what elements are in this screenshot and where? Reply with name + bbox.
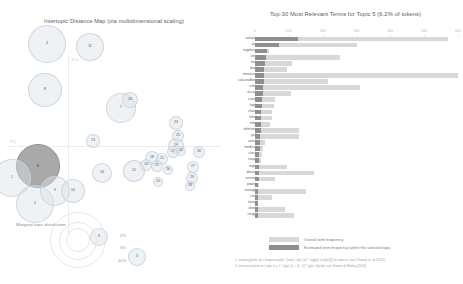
bar-topic-frequency <box>255 152 259 157</box>
bar-topic-frequency <box>255 73 264 78</box>
topic-bubble-label: 17 <box>171 150 175 154</box>
topic-bubble-label: 4 <box>46 42 48 46</box>
bar-topic-frequency <box>255 97 262 102</box>
topic-bubble-label: 5 <box>37 164 39 168</box>
topic-bubble-15[interactable]: 15 <box>156 153 168 165</box>
bar-topic-frequency <box>255 49 267 54</box>
legend-swatch-overall <box>269 237 299 242</box>
topic-bubble-13[interactable]: 13 <box>86 134 100 148</box>
topic-bubble-30[interactable]: 30 <box>193 146 205 158</box>
topic-bubble-label: 30 <box>197 150 201 154</box>
topic-bubble-label: 20 <box>156 180 160 184</box>
bar-topic-frequency <box>255 134 260 139</box>
bar-overall-frequency <box>255 207 285 212</box>
bar-topic-frequency <box>255 177 259 182</box>
topic-bubble-label: 26 <box>166 168 170 172</box>
bar-overall-frequency <box>255 189 306 194</box>
bar-chart-x-axis: 0100200300400500600 <box>255 29 458 35</box>
topic-bubble-26[interactable]: 26 <box>163 165 173 175</box>
size-legend-label-2pct: 2% <box>120 233 126 238</box>
footnote-relevance: 2. relevance(term w | topic t) = λ * p(w… <box>235 264 460 268</box>
term-bar-row[interactable]: rough <box>228 213 463 219</box>
intertopic-map-canvas[interactable]: PC2 PC1 41187242313512910161263181421151… <box>0 28 228 228</box>
topic-bubble-label: 22 <box>179 149 183 153</box>
legend-row-overall: Overall term frequency <box>269 236 459 244</box>
bar-topic-frequency <box>255 67 264 72</box>
bar-overall-frequency <box>255 79 328 84</box>
topic-bubble-23[interactable]: 23 <box>169 116 183 130</box>
topic-bubble-11[interactable]: 11 <box>76 33 104 61</box>
bar-topic-frequency <box>255 195 258 200</box>
pyldavis-app: Intertopic Distance Map (via multidimens… <box>0 0 463 284</box>
topic-bubble-label: 28 <box>188 184 192 188</box>
topic-bubble-22[interactable]: 22 <box>176 146 186 156</box>
bar-topic-frequency <box>255 55 266 60</box>
topic-bubble-label: 11 <box>88 45 92 49</box>
topic-bubble-label: 8 <box>44 88 46 92</box>
top-terms-panel: Top-30 Most Relevant Terms for Topic 5 (… <box>228 0 463 284</box>
bar-topic-frequency <box>255 207 258 212</box>
topic-bubble-label: 1 <box>11 176 13 180</box>
topic-bubble-label: 15 <box>160 157 164 161</box>
intertopic-distance-panel: Intertopic Distance Map (via multidimens… <box>0 0 228 284</box>
x-tick-label: 400 <box>387 29 393 33</box>
bar-topic-frequency <box>255 91 263 96</box>
x-tick-label: 500 <box>421 29 427 33</box>
size-legend-label-10pct: 10% <box>118 258 126 263</box>
topic-bubble-25[interactable]: 25 <box>172 130 184 142</box>
bar-topic-frequency <box>255 37 298 42</box>
legend-label-within: Estimated term frequency within the sele… <box>304 245 391 250</box>
map-y-axis <box>68 56 69 236</box>
size-circle-10pct <box>50 212 106 268</box>
intertopic-map-title: Intertopic Distance Map (via multidimens… <box>0 18 228 24</box>
pc1-axis-label: PC1 <box>10 140 17 144</box>
topic-bubble-10[interactable]: 10 <box>61 179 85 203</box>
topic-bubble-20[interactable]: 20 <box>153 177 163 187</box>
bar-topic-frequency <box>255 171 259 176</box>
x-tick-label: 300 <box>354 29 360 33</box>
topic-bubble-label: 2 <box>34 202 36 206</box>
bar-overall-frequency <box>255 128 299 133</box>
bar-topic-frequency <box>255 158 259 163</box>
topic-bubble-16[interactable]: 16 <box>92 163 112 183</box>
topic-bubble-label: 21 <box>155 164 159 168</box>
bar-topic-frequency <box>255 79 264 84</box>
legend-swatch-within <box>269 245 299 250</box>
topic-bubble-label: 18 <box>150 156 154 160</box>
bar-overall-frequency <box>255 213 294 218</box>
bar-overall-frequency <box>255 85 360 90</box>
bar-topic-frequency <box>255 165 259 170</box>
legend-row-within: Estimated term frequency within the sele… <box>269 244 459 252</box>
topic-bubble-label: 9 <box>54 189 56 193</box>
bar-topic-frequency <box>255 61 265 66</box>
bar-topic-frequency <box>255 104 262 109</box>
topic-bubble-4[interactable]: 4 <box>28 25 66 63</box>
bar-chart-title: Top-30 Most Relevant Terms for Topic 5 (… <box>228 11 463 17</box>
bar-overall-frequency <box>255 171 314 176</box>
topic-bubble-8[interactable]: 8 <box>28 73 62 107</box>
bar-topic-frequency <box>255 85 263 90</box>
topic-bubble-label: 12 <box>132 169 136 173</box>
bar-topic-frequency <box>255 128 261 133</box>
bar-topic-frequency <box>255 146 260 151</box>
bar-topic-frequency <box>255 116 261 121</box>
bar-chart-legend: Overall term frequency Estimated term fr… <box>269 236 459 252</box>
topic-bubble-label: 25 <box>176 134 180 138</box>
bar-overall-frequency <box>255 165 287 170</box>
bar-topic-frequency <box>255 43 279 48</box>
topic-bubble-label: 16 <box>100 171 104 175</box>
topic-bubble-28[interactable]: 28 <box>185 181 195 191</box>
x-tick-label: 200 <box>320 29 326 33</box>
topic-bubble-24[interactable]: 24 <box>122 92 138 108</box>
bar-overall-frequency <box>255 55 340 60</box>
footnote-saliency: 1. saliency(term w) = frequency(w) * [su… <box>235 258 460 262</box>
pc2-axis-label: PC2 <box>72 58 79 62</box>
bar-topic-frequency <box>255 122 261 127</box>
bar-topic-frequency <box>255 110 261 115</box>
topic-bubble-label: 13 <box>91 139 95 143</box>
bar-chart-bars[interactable]: valuateputregularisonetwodualmeasurecalc… <box>228 36 463 219</box>
size-legend-label-5pct: 5% <box>120 245 126 250</box>
legend-label-overall: Overall term frequency <box>304 237 343 242</box>
topic-bubble-label: 7 <box>120 106 122 110</box>
topic-bubble-label: 10 <box>71 189 75 193</box>
